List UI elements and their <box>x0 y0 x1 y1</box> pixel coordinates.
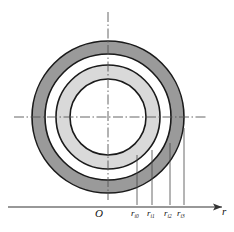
tick-label-ri3: ri3 <box>177 209 185 218</box>
r-axis-label: r <box>222 206 226 217</box>
tick-label-ri0: ri0 <box>131 209 139 218</box>
tick-symbol-ri3: r <box>177 208 181 218</box>
tick-label-ri2: ri2 <box>164 209 172 218</box>
tick-subscript-ri3: i3 <box>181 213 185 219</box>
tick-label-ri1: ri1 <box>147 209 155 218</box>
tick-symbol-ri2: r <box>164 208 168 218</box>
tick-symbol-ri1: r <box>147 208 151 218</box>
tick-subscript-ri2: i2 <box>168 213 172 219</box>
tick-symbol-ri0: r <box>131 208 135 218</box>
tick-subscript-ri1: i1 <box>151 213 155 219</box>
tick-subscript-ri0: i0 <box>135 213 139 219</box>
origin-label: O <box>95 208 103 219</box>
concentric-ring-diagram <box>0 0 234 232</box>
